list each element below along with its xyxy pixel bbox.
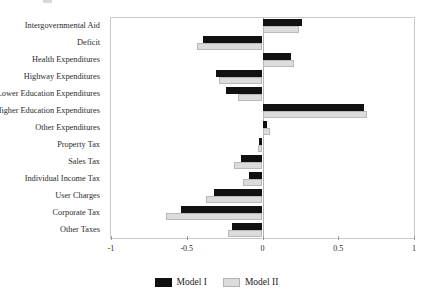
bar-model-i [263, 121, 268, 128]
category-label: Higher Education Expenditures [0, 106, 100, 115]
legend-item: Model I [155, 277, 207, 287]
bar-model-ii [238, 94, 262, 101]
category-label: Health Expenditures [0, 55, 100, 64]
category-label: Lower Education Expenditures [0, 89, 100, 98]
legend-label: Model I [177, 277, 207, 287]
bar-group [111, 172, 414, 186]
bar-model-i [214, 189, 262, 196]
axis-tick-label: 1 [412, 244, 416, 253]
bar-model-ii [206, 196, 262, 203]
bar-model-i [259, 138, 262, 145]
bar-model-ii [258, 145, 263, 152]
axis-tick-label: -0.5 [180, 244, 193, 253]
bar-model-ii [263, 128, 271, 135]
axis-tick [338, 236, 339, 240]
category-label: User Charges [0, 190, 100, 199]
bar-model-i [263, 53, 292, 60]
bar-model-ii [228, 230, 263, 237]
bar-group [111, 53, 414, 67]
bar-group [111, 87, 414, 101]
category-label: Corporate Tax [0, 207, 100, 216]
category-label: Intergovernmental Aid [0, 21, 100, 30]
bar-group [111, 189, 414, 203]
light-swatch [223, 278, 240, 287]
plot-area [110, 17, 415, 239]
bar-model-ii [197, 43, 262, 50]
bar-group [111, 206, 414, 220]
bar-group [111, 138, 414, 152]
bar-group [111, 19, 414, 33]
category-axis-labels: Intergovernmental AidDeficitHealth Expen… [0, 17, 104, 239]
bar-model-ii [263, 26, 299, 33]
bar-model-ii [166, 213, 263, 220]
legend-item: Model II [223, 277, 279, 287]
category-label: Highway Expenditures [0, 72, 100, 81]
category-label: Individual Income Tax [0, 173, 100, 182]
bar-model-ii [219, 77, 263, 84]
bar-model-i [232, 223, 262, 230]
bar-model-ii [243, 179, 263, 186]
bar-group [111, 36, 414, 50]
bar-model-ii [234, 162, 263, 169]
bar-model-ii [263, 111, 368, 118]
bar-model-i [181, 206, 263, 213]
axis-tick [111, 236, 112, 240]
bar-model-ii [263, 60, 295, 67]
bar-group [111, 223, 414, 237]
category-label: Other Expenditures [0, 123, 100, 132]
axis-tick-label: -1 [108, 244, 115, 253]
bar-model-i [203, 36, 262, 43]
dark-swatch [155, 278, 172, 287]
category-label: Other Taxes [0, 224, 100, 233]
bar-model-i [263, 19, 302, 26]
axis-tick-label: 0.5 [333, 244, 343, 253]
scan-artifact [43, 0, 52, 3]
bar-group [111, 121, 414, 135]
bar-group [111, 155, 414, 169]
legend-label: Model II [245, 277, 279, 287]
chart-legend: Model IModel II [0, 277, 433, 287]
category-label: Sales Tax [0, 156, 100, 165]
bar-model-i [216, 70, 263, 77]
bar-group [111, 104, 414, 118]
category-label: Property Tax [0, 139, 100, 148]
axis-tick [187, 236, 188, 240]
bar-chart-figure: Intergovernmental AidDeficitHealth Expen… [0, 0, 433, 306]
bar-group [111, 70, 414, 84]
bar-model-i [263, 104, 365, 111]
bar-model-i [249, 172, 263, 179]
bar-model-i [241, 155, 262, 162]
category-label: Deficit [0, 38, 100, 47]
axis-tick-label: 0 [261, 244, 265, 253]
axis-tick [414, 236, 415, 240]
bar-model-i [226, 87, 262, 94]
axis-tick [263, 236, 264, 240]
value-axis: -1-0.500.51 [110, 239, 415, 240]
